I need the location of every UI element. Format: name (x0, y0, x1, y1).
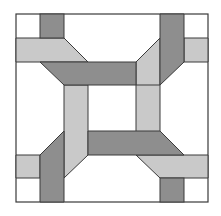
dark-square-bottom-right (160, 178, 184, 202)
light-bar-bottom-left (16, 155, 40, 178)
dark-square-top-left (40, 14, 64, 38)
light-bar-top-right (184, 38, 208, 62)
quilt-block (0, 0, 221, 216)
